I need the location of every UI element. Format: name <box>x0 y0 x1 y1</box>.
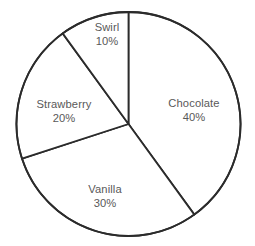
pie-chart: Chocolate 40% Vanilla 30% Strawberry 20%… <box>0 0 255 246</box>
pie-label-swirl-value: 10% <box>95 35 120 49</box>
pie-label-chocolate-name: Chocolate <box>168 97 219 111</box>
pie-label-swirl-name: Swirl <box>95 21 120 35</box>
pie-label-strawberry-name: Strawberry <box>36 98 91 112</box>
pie-label-vanilla-name: Vanilla <box>88 183 121 197</box>
pie-label-strawberry-value: 20% <box>36 112 91 126</box>
pie-label-strawberry: Strawberry 20% <box>36 98 91 125</box>
pie-label-chocolate: Chocolate 40% <box>168 97 219 124</box>
pie-label-vanilla: Vanilla 30% <box>88 183 121 210</box>
pie-label-vanilla-value: 30% <box>88 197 121 211</box>
pie-label-chocolate-value: 40% <box>168 111 219 125</box>
pie-label-swirl: Swirl 10% <box>95 21 120 48</box>
